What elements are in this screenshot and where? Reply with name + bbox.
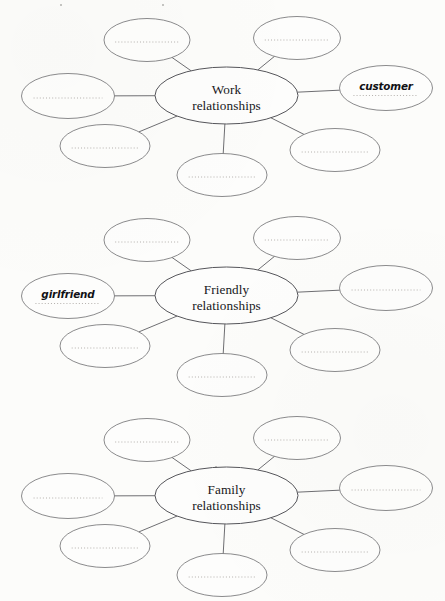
node-ellipse-bottom-right[interactable] [290, 329, 380, 372]
connector-line [172, 457, 191, 470]
connector-line [139, 116, 177, 132]
center-label-line1: Friendly [204, 282, 250, 297]
connector-line [139, 316, 177, 332]
node-ellipse-bottom-right[interactable] [290, 129, 380, 172]
connector-line [298, 290, 340, 292]
node-ellipse-bottom-right[interactable] [290, 529, 380, 572]
node-ellipse-top-right[interactable] [254, 17, 341, 60]
connector-line [258, 56, 275, 70]
node-ellipse-bottom[interactable] [177, 354, 267, 397]
center-label-line2: relationships [192, 298, 261, 313]
node-ellipse-bottom[interactable] [177, 154, 267, 197]
connector-line [172, 57, 191, 70]
diagram-friendly-relationships: girlfriendFriendlyrelationships [0, 200, 445, 400]
center-label-line2: relationships [192, 498, 261, 513]
connector-line [223, 524, 225, 554]
connector-line [172, 257, 191, 270]
node-label-left: girlfriend [41, 288, 95, 300]
node-ellipse-top-right[interactable] [254, 217, 341, 260]
center-label-line1: Work [212, 82, 242, 97]
node-ellipse-top-left[interactable] [104, 419, 190, 462]
node-ellipse-top-left[interactable] [104, 19, 190, 62]
node-ellipse-bottom-left[interactable] [60, 325, 150, 368]
node-ellipse-bottom[interactable] [177, 554, 267, 597]
diagram-family-relationships: Familyrelationships [0, 400, 445, 600]
node-ellipse-left[interactable] [22, 474, 115, 519]
connector-line [258, 256, 275, 270]
node-label-right: customer [359, 80, 414, 92]
node-ellipse-top-left[interactable] [104, 219, 190, 262]
connector-line [223, 324, 225, 354]
node-ellipse-right[interactable] [340, 466, 433, 511]
connector-line [139, 516, 177, 532]
connector-line [298, 490, 340, 492]
connector-line [223, 124, 225, 154]
node-ellipse-right[interactable] [340, 266, 433, 311]
node-ellipse-bottom-left[interactable] [60, 125, 150, 168]
center-label-line2: relationships [192, 98, 261, 113]
connector-line [271, 518, 304, 535]
connector-line [271, 118, 304, 135]
connector-line [258, 456, 275, 470]
node-ellipse-top-right[interactable] [254, 417, 341, 460]
node-ellipse-bottom-left[interactable] [60, 525, 150, 568]
connector-line [271, 318, 304, 335]
center-label-line1: Family [208, 482, 246, 497]
connector-line [298, 90, 340, 92]
node-ellipse-left[interactable] [22, 74, 115, 119]
diagram-work-relationships: customerWorkrelationships [0, 0, 445, 200]
